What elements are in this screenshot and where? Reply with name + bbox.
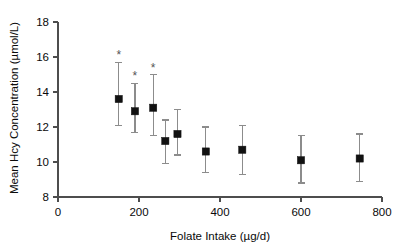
y-tick-label: 16 — [36, 51, 49, 63]
significance-asterisk: * — [133, 69, 138, 83]
y-axis-label: Mean Hcy Concentration (µmol/L) — [8, 22, 20, 194]
data-point — [174, 110, 181, 156]
data-marker — [162, 137, 169, 144]
y-tick-label: 14 — [36, 86, 49, 98]
data-point — [297, 136, 304, 183]
significance-asterisk: * — [116, 48, 121, 62]
data-series: *** — [115, 48, 363, 183]
y-axis-ticks: 81012141618 — [36, 16, 58, 203]
data-marker — [356, 155, 363, 162]
x-tick-label: 200 — [129, 206, 148, 218]
y-tick-label: 12 — [36, 121, 49, 133]
y-tick-label: 8 — [43, 191, 49, 203]
data-marker — [174, 130, 181, 137]
x-axis-ticks: 0200400600800 — [55, 197, 392, 218]
y-tick-label: 18 — [36, 16, 49, 28]
data-point — [202, 127, 209, 173]
data-marker — [131, 108, 138, 115]
data-marker — [115, 95, 122, 102]
data-point: * — [131, 69, 138, 132]
significance-asterisk: * — [151, 61, 156, 75]
x-tick-label: 800 — [372, 206, 391, 218]
data-marker — [297, 157, 304, 164]
axes — [58, 22, 382, 197]
data-point: * — [150, 61, 157, 136]
scatter-plot: 0200400600800 81012141618 *** Folate Int… — [0, 0, 406, 250]
data-marker — [150, 104, 157, 111]
data-point: * — [115, 48, 122, 125]
data-marker — [202, 148, 209, 155]
chart-figure: 0200400600800 81012141618 *** Folate Int… — [0, 0, 406, 250]
y-tick-label: 10 — [36, 156, 49, 168]
data-point — [239, 125, 246, 174]
x-tick-label: 400 — [210, 206, 229, 218]
data-point — [356, 134, 363, 181]
data-point — [162, 120, 169, 164]
x-axis-label: Folate Intake (µg/d) — [170, 230, 270, 242]
data-marker — [239, 146, 246, 153]
x-tick-label: 600 — [291, 206, 310, 218]
x-tick-label: 0 — [55, 206, 61, 218]
